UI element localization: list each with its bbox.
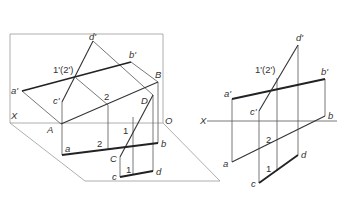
line-ab-right (232, 116, 325, 162)
label-b-prime-left: b' (129, 49, 137, 60)
line-a-prime-b-prime-right (232, 79, 325, 99)
label-a-prime-left: a' (11, 85, 19, 96)
label-1-h: 1 (126, 164, 131, 175)
label-2-space: 2 (104, 91, 109, 102)
label-1-space: 1 (123, 125, 128, 136)
line-cd-right (259, 155, 298, 183)
line-c-prime-d-prime-right (259, 45, 298, 111)
label-d-prime-left: d' (89, 31, 97, 42)
label-d-left: d (156, 166, 162, 177)
label-12-prime-left: 1'(2') (53, 64, 74, 75)
line-a-prime-b-prime (22, 62, 131, 91)
label-c-prime-left: c' (53, 95, 61, 106)
label-a-right: a (223, 158, 228, 169)
right-orthographic-view: X a' b' c' d' 1'(2') a b c d 2 1 (199, 32, 337, 189)
label-a-prime-right: a' (224, 88, 232, 99)
projector-d-prime-D (93, 41, 153, 95)
label-B: B (155, 69, 162, 80)
label-2-h: 2 (97, 138, 102, 149)
label-2-right: 2 (266, 134, 271, 145)
label-b-right: b (328, 110, 333, 121)
label-b-prime-right: b' (321, 66, 329, 77)
left-oblique-view: X O a' b' c' d' 1'(2') A B C D 2 1 a b c… (10, 31, 220, 182)
v-plane-frame (10, 34, 163, 123)
label-c-left: c (112, 171, 117, 182)
label-12-prime-right: 1'(2') (255, 64, 276, 75)
projection-diagram: X O a' b' c' d' 1'(2') A B C D 2 1 a b c… (0, 0, 345, 197)
label-1-right: 1 (266, 163, 271, 174)
label-o: O (165, 115, 173, 126)
label-c-right: c (251, 178, 256, 189)
label-a-left: a (65, 143, 70, 154)
label-C: C (110, 153, 117, 164)
label-c-prime-right: c' (250, 106, 258, 117)
label-x-right: X (199, 115, 207, 126)
label-b-left: b (161, 138, 166, 149)
label-d-right: d (301, 149, 307, 160)
label-D: D (141, 95, 148, 106)
label-x-left: X (10, 110, 18, 121)
line-cd (120, 171, 153, 177)
label-A: A (46, 124, 53, 135)
label-d-prime-right: d' (296, 32, 304, 43)
